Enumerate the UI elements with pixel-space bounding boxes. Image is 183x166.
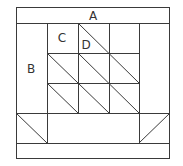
diagonal-4 xyxy=(47,83,78,113)
corner-diagonal-right xyxy=(139,113,170,143)
corner-diagonal-left xyxy=(16,113,47,143)
quilt-diagram: A B C D xyxy=(0,0,183,166)
label-d: D xyxy=(81,38,90,52)
label-b: B xyxy=(27,62,35,76)
label-a: A xyxy=(89,9,98,23)
label-c: C xyxy=(58,31,66,45)
